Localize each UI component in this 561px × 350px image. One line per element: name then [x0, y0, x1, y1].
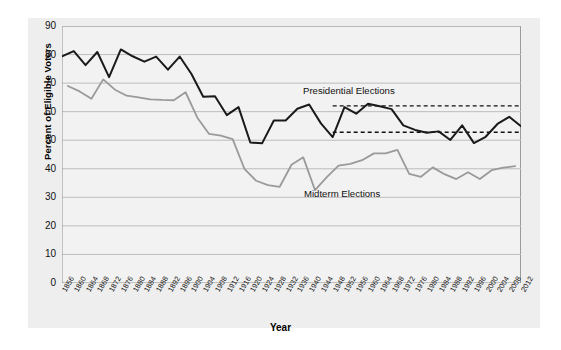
presidential-series-label: Presidential Elections [303, 85, 395, 96]
chart-root: Percent of Eligible Voters 0102030405060… [0, 0, 561, 350]
x-axis-title: Year [0, 322, 561, 333]
midterm-series-label: Midterm Elections [304, 188, 380, 199]
x-axis-tick-labels: 1856186018641868187218761880188418881892… [0, 0, 561, 350]
